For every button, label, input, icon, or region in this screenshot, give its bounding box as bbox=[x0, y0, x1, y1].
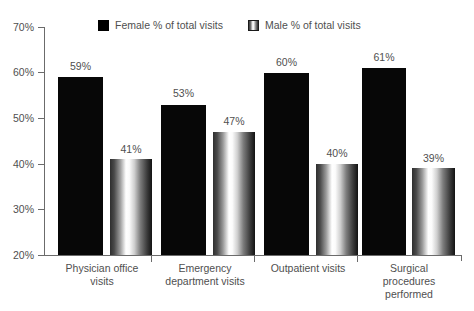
y-axis-label-20: 20% bbox=[0, 250, 34, 261]
y-axis-tick-30 bbox=[38, 209, 44, 210]
x-axis-end-cap bbox=[461, 255, 462, 261]
legend-item-female: Female % of total visits bbox=[98, 19, 223, 31]
legend-label-female: Female % of total visits bbox=[115, 19, 223, 31]
bar-male-physician-office-visits bbox=[110, 159, 152, 255]
y-axis-tick-40 bbox=[38, 164, 44, 165]
category-label-physician-office-visits: Physician office visits bbox=[46, 262, 158, 288]
y-axis-label-30: 30% bbox=[0, 204, 34, 215]
bar-male-outpatient-visits bbox=[316, 164, 358, 255]
legend-item-male: Male % of total visits bbox=[248, 19, 361, 31]
bar-male-emergency-department-visits bbox=[213, 132, 255, 255]
bar-value-female-surgical-procedures-performed: 61% bbox=[362, 52, 406, 63]
y-axis-label-60: 60% bbox=[0, 67, 34, 78]
bar-female-surgical-procedures-performed bbox=[362, 68, 406, 255]
bar-value-male-physician-office-visits: 41% bbox=[110, 144, 152, 155]
y-axis-tick-70 bbox=[38, 27, 44, 28]
bar-male-surgical-procedures-performed bbox=[412, 168, 455, 255]
y-axis-label-50: 50% bbox=[0, 113, 34, 124]
bar-female-emergency-department-visits bbox=[161, 105, 206, 256]
category-label-outpatient-visits: Outpatient visits bbox=[252, 262, 364, 275]
bar-female-physician-office-visits bbox=[58, 77, 103, 255]
category-label-emergency-department-visits: Emergency department visits bbox=[149, 262, 261, 288]
y-axis-tick-60 bbox=[38, 72, 44, 73]
legend-label-male: Male % of total visits bbox=[265, 19, 361, 31]
bar-value-male-outpatient-visits: 40% bbox=[316, 148, 358, 159]
bar-female-outpatient-visits bbox=[264, 73, 309, 255]
y-axis-line bbox=[44, 27, 45, 255]
category-label-surgical-procedures-performed: Surgical procedures performed bbox=[355, 262, 463, 301]
bar-value-female-emergency-department-visits: 53% bbox=[161, 88, 206, 99]
legend-swatch-male-icon bbox=[248, 20, 259, 31]
bar-value-female-outpatient-visits: 60% bbox=[264, 57, 309, 68]
y-axis-tick-20 bbox=[38, 255, 44, 256]
bar-value-female-physician-office-visits: 59% bbox=[58, 61, 103, 72]
legend-swatch-female-icon bbox=[98, 20, 109, 31]
y-axis-label-40: 40% bbox=[0, 159, 34, 170]
y-axis-tick-50 bbox=[38, 118, 44, 119]
chart-legend: Female % of total visits Male % of total… bbox=[98, 19, 438, 39]
grouped-bar-chart: Female % of total visits Male % of total… bbox=[0, 0, 474, 311]
y-axis-label-70: 70% bbox=[0, 22, 34, 33]
bar-value-male-surgical-procedures-performed: 39% bbox=[412, 153, 455, 164]
x-axis-line bbox=[44, 255, 462, 256]
bar-value-male-emergency-department-visits: 47% bbox=[213, 116, 255, 127]
